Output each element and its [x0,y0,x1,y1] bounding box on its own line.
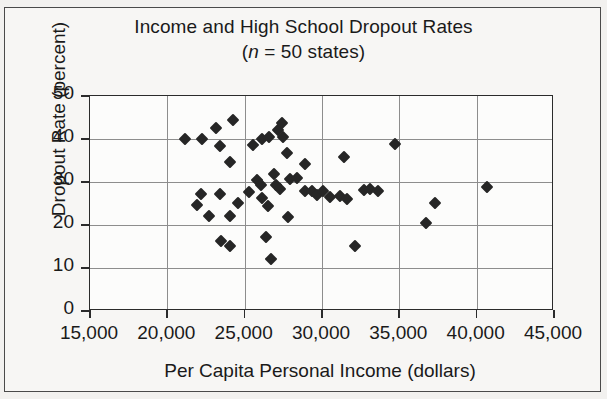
figure-container: Income and High School Dropout Rates (n … [0,0,607,399]
data-point [224,155,237,168]
data-point [265,253,278,266]
data-point [196,133,209,146]
y-gridline [90,182,552,183]
data-point [191,199,204,212]
data-point [203,209,216,222]
y-axis-tick-label: 30 [28,168,74,190]
data-point [429,196,442,209]
x-axis-tick-label: 45,000 [508,322,598,344]
data-point [260,231,273,244]
plot-area [89,95,553,310]
y-axis-tick-label: 20 [28,211,74,233]
y-axis-tick [81,95,89,97]
data-point [214,140,227,153]
x-gridline [322,96,323,309]
data-point [349,239,362,252]
data-point [179,133,192,146]
data-point [277,131,290,144]
x-gridline [245,96,246,309]
data-point [214,188,227,201]
data-point [281,146,294,159]
y-axis-tick [81,181,89,183]
x-axis-tick [166,310,168,318]
x-axis-tick [398,310,400,318]
y-axis-tick [81,310,89,312]
data-point [232,197,245,210]
y-axis-tick [81,267,89,269]
x-gridline [399,96,400,309]
x-axis-title: Per Capita Personal Income (dollars) [70,360,570,382]
chart-subtitle-rest: = 50 states) [259,41,365,62]
y-axis-tick-label: 10 [28,254,74,276]
data-point [210,122,223,135]
x-gridline [167,96,168,309]
data-point [299,158,312,171]
chart-title: Income and High School Dropout Rates [0,14,607,39]
data-point [227,114,240,127]
chart-subtitle-variable: n [248,41,259,62]
x-axis-tick [476,310,478,318]
x-axis-tick [89,310,91,318]
data-point [224,210,237,223]
data-point [337,150,350,163]
data-point [282,211,295,224]
x-axis-tick [321,310,323,318]
y-axis-tick [81,224,89,226]
y-axis-tick-label: 0 [28,297,74,319]
x-axis-tick [244,310,246,318]
chart-title-block: Income and High School Dropout Rates (n … [0,14,607,64]
data-point [419,216,432,229]
y-axis-tick-label: 40 [28,125,74,147]
y-gridline [90,225,552,226]
y-gridline [90,268,552,269]
y-axis-tick [81,138,89,140]
x-gridline [477,96,478,309]
y-gridline [90,139,552,140]
x-axis-tick [553,310,555,318]
chart-subtitle: (n = 50 states) [0,39,607,64]
y-axis-tick-label: 50 [28,82,74,104]
